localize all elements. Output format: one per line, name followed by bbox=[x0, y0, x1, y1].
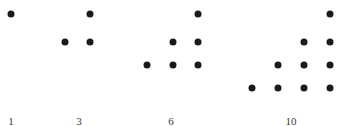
data-point-3-2 bbox=[62, 39, 69, 46]
data-point-6-4 bbox=[144, 62, 151, 69]
data-point-10-1 bbox=[327, 11, 334, 18]
data-point-6-6 bbox=[195, 62, 202, 69]
data-point-6-3 bbox=[195, 39, 202, 46]
data-point-3-3 bbox=[87, 39, 94, 46]
data-point-6-1 bbox=[195, 11, 202, 18]
data-point-3-1 bbox=[87, 11, 94, 18]
plot-area: 13610 bbox=[0, 0, 342, 126]
data-point-6-5 bbox=[170, 62, 177, 69]
data-point-10-6 bbox=[327, 62, 334, 69]
data-point-10-8 bbox=[275, 85, 282, 92]
data-point-10-4 bbox=[275, 62, 282, 69]
data-point-10-10 bbox=[327, 85, 334, 92]
data-point-1-1 bbox=[8, 11, 15, 18]
x-axis-tick-label-6: 6 bbox=[168, 116, 174, 126]
data-point-10-7 bbox=[249, 85, 256, 92]
triangular-number-dot-figure: 13610 bbox=[0, 0, 342, 126]
data-point-10-9 bbox=[301, 85, 308, 92]
x-axis-tick-label-1: 1 bbox=[8, 116, 14, 126]
data-point-10-3 bbox=[327, 39, 334, 46]
data-point-6-2 bbox=[170, 39, 177, 46]
x-axis-tick-label-3: 3 bbox=[76, 116, 82, 126]
data-point-10-2 bbox=[301, 39, 308, 46]
data-point-10-5 bbox=[301, 62, 308, 69]
x-axis-tick-label-10: 10 bbox=[286, 116, 297, 126]
